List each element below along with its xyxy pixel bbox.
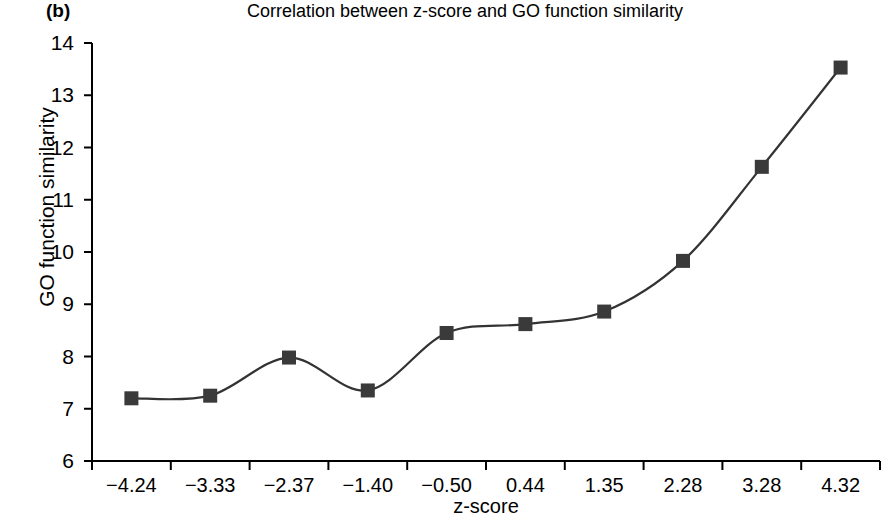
data-point-marker [518, 317, 532, 331]
y-tick-label: 9 [34, 293, 74, 314]
y-tick-label: 13 [34, 84, 74, 105]
y-tick-label: 12 [34, 137, 74, 158]
y-tick-label: 11 [34, 189, 74, 210]
data-point-marker [755, 160, 769, 174]
x-tick-label: −0.50 [402, 475, 492, 495]
y-tick-label: 7 [34, 398, 74, 419]
data-point-marker [282, 351, 296, 365]
y-tick-label: 6 [34, 450, 74, 471]
y-tick-label: 8 [34, 346, 74, 367]
y-tick-label: 10 [34, 241, 74, 262]
x-tick-label: 2.28 [638, 475, 728, 495]
data-point-marker [676, 254, 690, 268]
data-markers [124, 61, 847, 406]
x-tick-label: 3.28 [717, 475, 807, 495]
data-point-marker [124, 391, 138, 405]
chart-figure: (b) Correlation between z-score and GO f… [0, 0, 885, 519]
x-tick-label: 4.32 [796, 475, 885, 495]
data-point-marker [440, 326, 454, 340]
y-axis-ticks [84, 43, 92, 461]
x-tick-label: −4.24 [86, 475, 176, 495]
data-line-series [131, 68, 840, 400]
x-tick-label: 0.44 [480, 475, 570, 495]
x-tick-label: −1.40 [323, 475, 413, 495]
plot-area [0, 0, 885, 519]
x-tick-label: −2.37 [244, 475, 334, 495]
y-tick-label: 14 [34, 32, 74, 53]
x-tick-label: −3.33 [165, 475, 255, 495]
data-point-marker [834, 61, 848, 75]
x-tick-label: 1.35 [559, 475, 649, 495]
data-point-marker [597, 305, 611, 319]
data-point-marker [203, 389, 217, 403]
x-axis-ticks [92, 461, 880, 470]
data-point-marker [361, 383, 375, 397]
